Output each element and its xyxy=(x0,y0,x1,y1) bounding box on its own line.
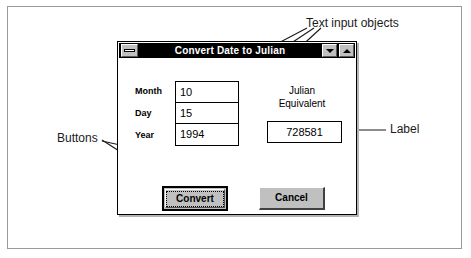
label-day: Day xyxy=(135,108,152,118)
julian-equivalent-label: Julian Equivalent xyxy=(259,84,345,110)
annotation-text-input-objects: Text input objects xyxy=(306,16,399,30)
text-input-group: 10 15 1994 xyxy=(175,81,239,146)
convert-button-label: Convert xyxy=(166,191,224,207)
dialog-client-area: Month Day Year 10 15 1994 Julian Equival… xyxy=(119,58,355,213)
month-input[interactable]: 10 xyxy=(176,82,238,103)
julian-equivalent-value: 728581 xyxy=(267,121,342,143)
day-input[interactable]: 15 xyxy=(176,103,238,124)
cancel-button-label: Cancel xyxy=(260,193,323,203)
annotation-label: Label xyxy=(390,122,419,136)
window-title: Convert Date to Julian xyxy=(139,43,321,58)
system-menu-icon[interactable] xyxy=(121,44,138,57)
year-input[interactable]: 1994 xyxy=(176,124,238,145)
dialog-window: Convert Date to Julian Month Day Year 10… xyxy=(117,41,357,215)
convert-button-face: Convert xyxy=(165,189,225,208)
minimize-button[interactable] xyxy=(322,44,337,57)
label-year: Year xyxy=(135,130,154,140)
label-month: Month xyxy=(135,86,162,96)
annotation-buttons: Buttons xyxy=(57,131,98,145)
triangle-up-icon xyxy=(343,49,351,53)
triangle-down-icon xyxy=(326,49,334,53)
title-bar[interactable]: Convert Date to Julian xyxy=(119,43,355,58)
cancel-button[interactable]: Cancel xyxy=(259,187,325,210)
julian-equivalent-label-line2: Equivalent xyxy=(259,97,345,110)
screenshot-canvas: Convert Date to Julian Month Day Year 10… xyxy=(0,0,471,258)
maximize-button[interactable] xyxy=(339,44,354,57)
convert-button[interactable]: Convert xyxy=(162,186,228,211)
julian-equivalent-label-line1: Julian xyxy=(259,84,345,97)
